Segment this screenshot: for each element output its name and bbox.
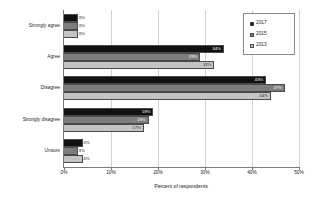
- legend-label: 2015: [256, 32, 267, 37]
- category-label: Agree: [47, 55, 60, 60]
- bar-value-label: 44%: [259, 94, 268, 98]
- legend-item-2015[interactable]: 2015: [250, 29, 294, 40]
- legend-item-2013[interactable]: 2013: [250, 40, 294, 51]
- bar[interactable]: 18%: [64, 116, 149, 124]
- bar-value-label: 32%: [203, 63, 212, 67]
- bar-value-label: 19%: [142, 110, 151, 114]
- x-axis-title: Percent of respondents: [63, 184, 299, 189]
- bar-row: 18%: [64, 116, 299, 124]
- x-tick-label: 10%: [106, 171, 116, 176]
- category-label: Unsure: [45, 149, 60, 154]
- bar-value-label: 17%: [132, 126, 141, 130]
- bar[interactable]: 3%: [64, 22, 78, 30]
- bar-row: 3%: [64, 147, 299, 155]
- legend-label: 2013: [256, 43, 267, 48]
- bar-row: 47%: [64, 84, 299, 92]
- bar[interactable]: 32%: [64, 61, 214, 69]
- bar[interactable]: 34%: [64, 45, 224, 53]
- bar[interactable]: 4%: [64, 155, 83, 163]
- bar[interactable]: 4%: [64, 139, 83, 147]
- bar-value-label: 3%: [79, 23, 85, 27]
- legend-label: 2017: [256, 21, 267, 26]
- gridline: [299, 10, 300, 167]
- bar-value-label: 47%: [273, 86, 282, 90]
- bar-row: 4%: [64, 155, 299, 163]
- bar[interactable]: 3%: [64, 14, 78, 22]
- bar-value-label: 29%: [189, 55, 198, 59]
- bar[interactable]: 43%: [64, 76, 266, 84]
- bar[interactable]: 47%: [64, 84, 285, 92]
- bar-chart: 0%10%20%30%40%50% Strongly agree3%3%3%Ag…: [0, 0, 320, 199]
- bar-value-label: 18%: [137, 118, 146, 122]
- x-tick-label: 30%: [200, 171, 210, 176]
- bar[interactable]: 19%: [64, 108, 153, 116]
- bar[interactable]: 17%: [64, 124, 144, 132]
- bar-value-label: 43%: [255, 78, 264, 82]
- category-label: Strongly agree: [29, 23, 60, 28]
- bar-value-label: 34%: [212, 47, 221, 51]
- bar-row: 17%: [64, 124, 299, 132]
- legend-item-2017[interactable]: 2017: [250, 18, 294, 29]
- legend-swatch-icon: [250, 33, 254, 37]
- chart-legend: 2017 2015 2013: [243, 13, 295, 55]
- bar[interactable]: 44%: [64, 92, 271, 100]
- bar-row: 19%: [64, 108, 299, 116]
- bar-value-label: 3%: [79, 15, 85, 19]
- bar-group: Strongly disagree19%18%17%: [64, 104, 299, 135]
- bar-row: 32%: [64, 61, 299, 69]
- category-label: Strongly disagree: [23, 117, 60, 122]
- legend-swatch-icon: [250, 44, 254, 48]
- bar-group: Disagree43%47%44%: [64, 73, 299, 104]
- x-tick-label: 20%: [153, 171, 163, 176]
- legend-swatch-icon: [250, 22, 254, 26]
- bar-row: 44%: [64, 92, 299, 100]
- bar[interactable]: 3%: [64, 30, 78, 38]
- bar-value-label: 3%: [79, 149, 85, 153]
- bar-value-label: 3%: [79, 31, 85, 35]
- bar-group: Unsure4%3%4%: [64, 136, 299, 167]
- x-tick-label: 0%: [61, 171, 68, 176]
- bar[interactable]: 3%: [64, 147, 78, 155]
- bar[interactable]: 29%: [64, 53, 200, 61]
- x-tick-label: 50%: [294, 171, 304, 176]
- bar-value-label: 4%: [83, 157, 89, 161]
- category-label: Disagree: [41, 86, 60, 91]
- x-tick-label: 40%: [247, 171, 257, 176]
- bar-row: 43%: [64, 76, 299, 84]
- bar-row: 4%: [64, 139, 299, 147]
- bar-value-label: 4%: [83, 141, 89, 145]
